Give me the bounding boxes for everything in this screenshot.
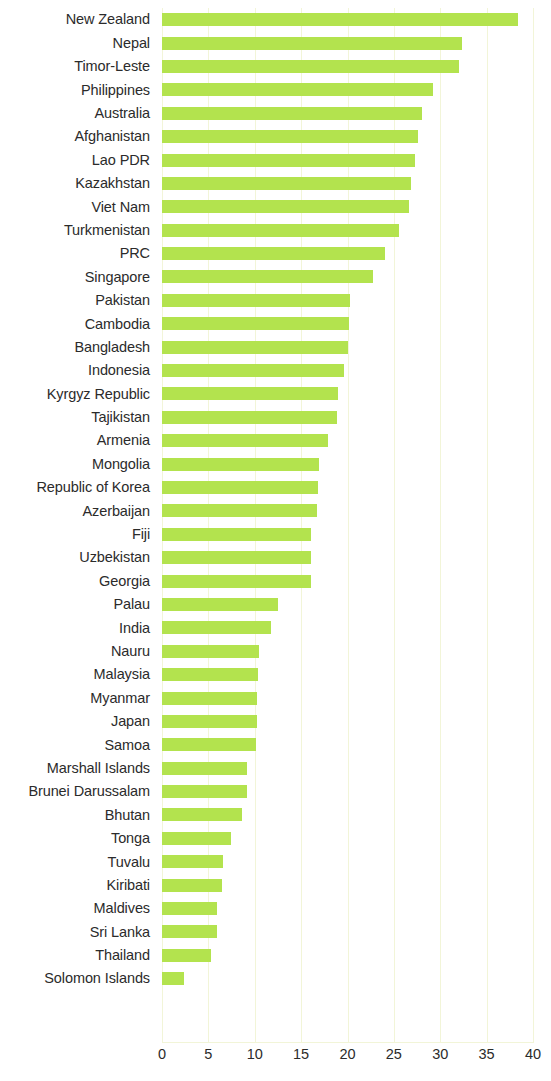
bar — [162, 224, 399, 237]
bar — [162, 13, 518, 26]
category-label-row: Mongolia — [0, 452, 156, 475]
x-tick-label: 0 — [158, 1047, 166, 1062]
bar — [162, 645, 259, 658]
category-label: Bangladesh — [74, 340, 150, 355]
bar — [162, 855, 223, 868]
category-label: Samoa — [105, 738, 150, 753]
bar-row — [162, 523, 533, 546]
x-tick-label: 30 — [432, 1047, 448, 1062]
category-label: Turkmenistan — [64, 223, 150, 238]
x-tick-label: 40 — [525, 1047, 541, 1062]
bar-row — [162, 686, 533, 709]
bar — [162, 387, 338, 400]
category-label: Kiribati — [106, 878, 150, 893]
x-tick-label: 20 — [339, 1047, 355, 1062]
category-label: Lao PDR — [92, 153, 150, 168]
category-label-row: Pakistan — [0, 289, 156, 312]
bar-row — [162, 429, 533, 452]
category-label-row: Republic of Korea — [0, 476, 156, 499]
bar-row — [162, 499, 533, 522]
bar — [162, 738, 256, 751]
category-label: Tajikistan — [91, 410, 150, 425]
category-label-row: Samoa — [0, 733, 156, 756]
bar — [162, 247, 385, 260]
bar-row — [162, 640, 533, 663]
category-label-row: Timor-Leste — [0, 55, 156, 78]
category-label-row: Palau — [0, 593, 156, 616]
bar-row — [162, 312, 533, 335]
bar — [162, 551, 311, 564]
bar-row — [162, 850, 533, 873]
bar — [162, 715, 257, 728]
category-label-row: Nepal — [0, 31, 156, 54]
category-label: Republic of Korea — [36, 480, 150, 495]
bar — [162, 200, 409, 213]
category-label: Bhutan — [105, 808, 150, 823]
bar-row — [162, 289, 533, 312]
category-label: Viet Nam — [91, 200, 150, 215]
bar-row — [162, 55, 533, 78]
category-label-row: Sri Lanka — [0, 920, 156, 943]
category-label-row: Indonesia — [0, 359, 156, 382]
category-label-row: Tuvalu — [0, 850, 156, 873]
category-label-row: Bangladesh — [0, 335, 156, 358]
bar-row — [162, 148, 533, 171]
bar — [162, 762, 247, 775]
category-label: Fiji — [132, 527, 150, 542]
bar-row — [162, 31, 533, 54]
bar — [162, 411, 337, 424]
category-label: Marshall Islands — [47, 761, 150, 776]
bar — [162, 879, 222, 892]
bar-row — [162, 8, 533, 31]
bar — [162, 832, 231, 845]
bar-row — [162, 944, 533, 967]
category-label-row: Myanmar — [0, 686, 156, 709]
bar-row — [162, 897, 533, 920]
category-label-row: Tajikistan — [0, 406, 156, 429]
category-label-row: Viet Nam — [0, 195, 156, 218]
category-label: Australia — [94, 106, 150, 121]
bar-row — [162, 803, 533, 826]
category-label: Pakistan — [95, 293, 150, 308]
category-label-row: PRC — [0, 242, 156, 265]
bar — [162, 481, 318, 494]
bar — [162, 785, 247, 798]
category-label: Kazakhstan — [75, 176, 150, 191]
horizontal-bar-chart: New ZealandNepalTimor-LestePhilippinesAu… — [0, 0, 551, 1081]
category-label: Tonga — [111, 831, 150, 846]
bar — [162, 668, 258, 681]
category-label: Nepal — [113, 36, 150, 51]
category-label: Nauru — [111, 644, 150, 659]
bar — [162, 60, 459, 73]
bar-row — [162, 593, 533, 616]
x-axis-tick-labels: 0510152025303540 — [162, 1047, 533, 1077]
category-label-row: Thailand — [0, 944, 156, 967]
bar — [162, 154, 415, 167]
bar — [162, 692, 257, 705]
bar-row — [162, 452, 533, 475]
category-label-row: Fiji — [0, 523, 156, 546]
bar-rows — [162, 8, 533, 1043]
category-label: Singapore — [85, 270, 150, 285]
bar — [162, 598, 278, 611]
bar — [162, 458, 319, 471]
bar-row — [162, 920, 533, 943]
category-label: Indonesia — [88, 363, 150, 378]
category-label-row: Kazakhstan — [0, 172, 156, 195]
category-label-row: Kiribati — [0, 873, 156, 896]
bar — [162, 364, 344, 377]
bar-row — [162, 710, 533, 733]
bar-row — [162, 219, 533, 242]
bar — [162, 902, 217, 915]
bar-row — [162, 967, 533, 990]
category-label: Japan — [111, 714, 150, 729]
category-label: PRC — [120, 246, 150, 261]
category-label-row: Japan — [0, 710, 156, 733]
category-label-row: Bhutan — [0, 803, 156, 826]
bar-row — [162, 873, 533, 896]
category-label: New Zealand — [66, 12, 150, 27]
bar — [162, 434, 328, 447]
bar — [162, 37, 462, 50]
bar-row — [162, 195, 533, 218]
category-label: Uzbekistan — [79, 550, 150, 565]
